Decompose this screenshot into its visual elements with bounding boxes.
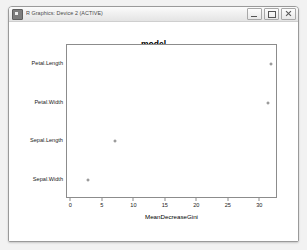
data-point bbox=[86, 178, 89, 181]
x-axis-tick-label: 5 bbox=[100, 202, 103, 208]
x-axis-tick bbox=[101, 198, 102, 201]
x-axis-tick bbox=[133, 198, 134, 201]
plot-canvas: model Petal.LengthPetal.WidthSepal.Lengt… bbox=[9, 22, 298, 241]
y-axis-tick-label: Petal.Length bbox=[32, 60, 63, 66]
x-axis-tick-label: 30 bbox=[256, 202, 262, 208]
window-title: R Graphics: Device 2 (ACTIVE) bbox=[26, 11, 247, 16]
x-axis-tick-label: 25 bbox=[225, 202, 231, 208]
x-axis-tick bbox=[164, 198, 165, 201]
y-axis-tick-label: Sepal.Width bbox=[33, 176, 63, 182]
window-titlebar[interactable]: R Graphics: Device 2 (ACTIVE) bbox=[9, 7, 298, 22]
data-point bbox=[114, 140, 117, 143]
y-axis-labels: Petal.LengthPetal.WidthSepal.LengthSepal… bbox=[17, 44, 63, 198]
maximize-button[interactable] bbox=[264, 8, 279, 20]
r-graphics-window: R Graphics: Device 2 (ACTIVE) model Peta… bbox=[8, 6, 299, 242]
x-axis-tick bbox=[70, 198, 71, 201]
window-controls bbox=[247, 8, 296, 20]
x-axis-tick bbox=[196, 198, 197, 201]
r-graphics-icon bbox=[12, 9, 23, 20]
y-axis-tick-label: Petal.Width bbox=[34, 99, 63, 105]
x-axis-tick bbox=[259, 198, 260, 201]
x-axis-tick bbox=[227, 198, 228, 201]
x-axis-tick-label: 20 bbox=[193, 202, 199, 208]
close-button[interactable] bbox=[281, 8, 296, 20]
x-axis-tick-label: 10 bbox=[130, 202, 136, 208]
data-point bbox=[270, 63, 273, 66]
x-axis-tick-label: 15 bbox=[162, 202, 168, 208]
y-axis-tick-label: Sepal.Length bbox=[30, 137, 63, 143]
x-axis-title: MeanDecreaseGini bbox=[66, 213, 277, 220]
x-axis-tick-label: 0 bbox=[69, 202, 72, 208]
data-point bbox=[266, 101, 269, 104]
minimize-button[interactable] bbox=[247, 8, 262, 20]
plot-area bbox=[66, 44, 277, 198]
